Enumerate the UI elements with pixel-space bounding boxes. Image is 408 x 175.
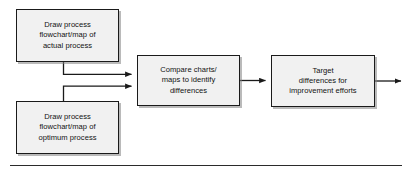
connector-optimum-to-compare: [64, 86, 132, 101]
connector-actual-to-compare: [64, 62, 132, 74]
process-flowchart-diagram: Draw process flowchart/map of actual pro…: [0, 0, 408, 175]
target-differences-box[interactable]: Target differences for improvement effor…: [271, 55, 375, 107]
compare-charts-label: Compare charts/ maps to identify differe…: [157, 65, 219, 96]
target-differences-label: Target differences for improvement effor…: [286, 66, 359, 97]
draw-actual-process-label: Draw process flowchart/map of actual pro…: [36, 20, 98, 51]
compare-charts-box[interactable]: Compare charts/ maps to identify differe…: [137, 55, 240, 106]
draw-actual-process-box[interactable]: Draw process flowchart/map of actual pro…: [16, 9, 119, 62]
draw-optimum-process-box[interactable]: Draw process flowchart/map of optimum pr…: [16, 101, 119, 154]
draw-optimum-process-label: Draw process flowchart/map of optimum pr…: [35, 112, 99, 143]
footer-divider: [10, 165, 402, 166]
